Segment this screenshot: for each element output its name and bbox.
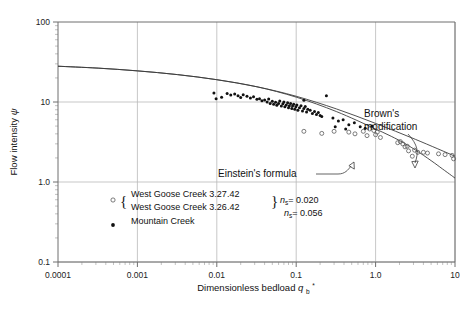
legend-brace-left: { bbox=[120, 193, 127, 209]
data-point-filled bbox=[263, 98, 266, 101]
x-tick-label: 0.0001 bbox=[45, 270, 71, 280]
legend-n-value-2: ns= 0.056 bbox=[284, 208, 323, 219]
legend-label-west-goose-creek-327: West Goose Creek 3.27.42 bbox=[131, 189, 239, 199]
legend-marker-open-circle bbox=[111, 198, 115, 202]
data-point-filled bbox=[260, 99, 263, 102]
x-axis-symbol-sup: * bbox=[312, 282, 315, 289]
x-axis-symbol: q bbox=[298, 282, 304, 293]
data-point-filled bbox=[334, 125, 337, 128]
data-point-open bbox=[425, 151, 429, 155]
y-tick-label: 1.0 bbox=[38, 177, 50, 187]
data-point-filled bbox=[359, 125, 362, 128]
annotation-browns-line1: Brown's bbox=[364, 108, 399, 119]
data-point-filled bbox=[296, 109, 299, 112]
data-point-open bbox=[320, 131, 324, 135]
data-point-filled bbox=[212, 91, 215, 94]
x-tick-label: 1.0 bbox=[370, 270, 382, 280]
data-point-filled bbox=[301, 110, 304, 113]
data-point-filled bbox=[258, 97, 261, 100]
data-point-open bbox=[443, 153, 447, 157]
series-mountain-creek bbox=[212, 91, 373, 130]
y-axis-symbol: ψ bbox=[8, 108, 19, 115]
x-tick-labels: 0.00010.0010.010.11.010 bbox=[45, 270, 460, 280]
y-tick-labels: 100101.00.1 bbox=[36, 17, 50, 267]
annotation-einsteins-line1: Einstein's formula bbox=[218, 168, 297, 179]
data-point-open bbox=[437, 152, 441, 156]
annotation-einsteins-leader bbox=[316, 166, 351, 174]
data-point-filled bbox=[353, 121, 356, 124]
data-point-filled bbox=[242, 93, 245, 96]
data-point-filled bbox=[229, 94, 232, 97]
figure-container: 0.00010.0010.010.11.010 100101.00.1 Dime… bbox=[0, 0, 473, 313]
data-point-open bbox=[353, 132, 357, 136]
data-point-filled bbox=[286, 101, 289, 104]
data-point-filled bbox=[255, 98, 258, 101]
data-point-filled bbox=[274, 101, 277, 104]
data-point-filled bbox=[233, 92, 236, 95]
data-point-filled bbox=[320, 115, 323, 118]
x-axis-title: Dimensionless bedload q b * bbox=[197, 282, 315, 296]
legend-n-number-2: 0.056 bbox=[300, 208, 323, 218]
data-point-filled bbox=[300, 104, 303, 107]
annotation-browns-line2: modification bbox=[364, 121, 417, 132]
data-point-open bbox=[302, 129, 306, 133]
data-point-filled bbox=[304, 105, 307, 108]
y-tick-label: 0.1 bbox=[38, 257, 50, 267]
legend-label-mountain-creek: Mountain Creek bbox=[131, 216, 195, 226]
data-point-filled bbox=[313, 110, 316, 113]
legend-brace-right: } bbox=[271, 193, 278, 209]
data-point-filled bbox=[226, 92, 229, 95]
data-point-open bbox=[421, 150, 425, 154]
y-axis-title-text: Flow intensity bbox=[8, 118, 19, 176]
x-axis-symbol-sub: b bbox=[306, 288, 310, 295]
data-point-filled bbox=[347, 123, 350, 126]
data-point-filled bbox=[292, 103, 295, 106]
legend-n-number-1: 0.020 bbox=[296, 195, 319, 205]
data-point-filled bbox=[271, 100, 274, 103]
data-point-filled bbox=[269, 102, 272, 105]
data-point-filled bbox=[305, 111, 308, 114]
data-point-filled bbox=[342, 118, 345, 121]
data-point-filled bbox=[249, 97, 252, 100]
data-point-filled bbox=[309, 109, 312, 112]
data-point-filled bbox=[289, 102, 292, 105]
y-tick-label: 10 bbox=[41, 97, 51, 107]
x-axis-title-text: Dimensionless bedload bbox=[197, 282, 295, 293]
data-point-filled bbox=[239, 96, 242, 99]
data-point-filled bbox=[245, 95, 248, 98]
data-point-filled bbox=[337, 119, 340, 122]
data-point-filled bbox=[267, 98, 270, 101]
data-point-open bbox=[365, 134, 369, 138]
x-tick-label: 10 bbox=[450, 270, 460, 280]
x-tick-label: 0.01 bbox=[209, 270, 226, 280]
x-tick-label: 0.1 bbox=[290, 270, 302, 280]
legend-n-value-1: ns= 0.020 bbox=[280, 195, 319, 206]
annotation-browns-modification: Brown's modification bbox=[364, 108, 418, 168]
data-point-filled bbox=[317, 111, 320, 114]
annotation-einsteins-formula: Einstein's formula bbox=[218, 162, 354, 179]
data-point-filled bbox=[344, 127, 347, 130]
data-point-filled bbox=[278, 99, 281, 102]
log-log-scatter-chart: 0.00010.0010.010.11.010 100101.00.1 Dime… bbox=[0, 0, 473, 313]
data-point-filled bbox=[302, 99, 305, 102]
data-point-filled bbox=[325, 94, 328, 97]
y-tick-label: 100 bbox=[36, 17, 50, 27]
data-point-filled bbox=[295, 103, 298, 106]
data-point-filled bbox=[266, 101, 269, 104]
data-point-open bbox=[347, 130, 351, 134]
data-point-open bbox=[378, 136, 382, 140]
data-point-filled bbox=[282, 101, 285, 104]
axis-ticks bbox=[53, 22, 455, 267]
data-point-filled bbox=[331, 117, 334, 120]
data-point-filled bbox=[220, 96, 223, 99]
data-point-filled bbox=[237, 94, 240, 97]
y-axis-title: Flow intensity ψ bbox=[8, 108, 19, 175]
data-point-open bbox=[407, 149, 411, 153]
data-point-filled bbox=[215, 97, 218, 100]
data-point-open bbox=[332, 129, 336, 133]
legend-marker-filled-circle bbox=[111, 223, 115, 227]
data-point-filled bbox=[252, 95, 255, 98]
legend-label-west-goose-creek-326: West Goose Creek 3.26.42 bbox=[131, 202, 239, 212]
data-point-open bbox=[410, 154, 414, 158]
x-tick-label: 0.001 bbox=[127, 270, 149, 280]
